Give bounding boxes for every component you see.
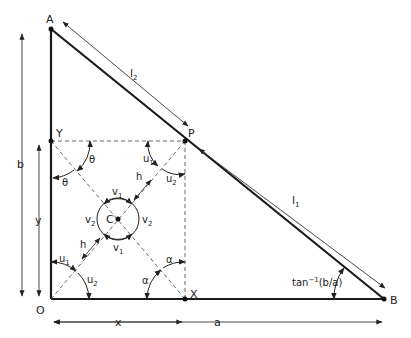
label-l2: l2	[130, 67, 138, 82]
point-X	[183, 297, 188, 302]
point-A	[49, 27, 54, 32]
label-h-lower: h	[80, 239, 86, 250]
point-C	[116, 217, 121, 222]
label-u1-upper: u1	[143, 153, 154, 167]
label-a: a	[214, 316, 221, 329]
label-alpha-right: α	[166, 254, 173, 265]
dimension-arrow-l2	[63, 22, 188, 126]
point-B	[382, 297, 387, 302]
label-C: C	[106, 213, 114, 226]
label-v1-top: v1	[112, 186, 122, 200]
alpha-arc-left	[147, 270, 161, 299]
label-y: y	[35, 214, 42, 227]
label-X: X	[190, 288, 198, 301]
label-v2-right: v2	[142, 214, 152, 228]
label-u2-upper: u2	[166, 173, 177, 187]
label-v1-bottom: v1	[113, 242, 123, 256]
label-B: B	[390, 294, 398, 307]
label-O: O	[36, 304, 45, 317]
h-arrow-upper	[134, 180, 151, 200]
label-alpha-left: α	[142, 275, 149, 286]
label-theta-upper: θ	[89, 154, 95, 165]
label-l1: l1	[292, 194, 300, 209]
point-P	[183, 139, 188, 144]
triangle	[51, 29, 384, 299]
label-x: x	[115, 316, 122, 329]
label-P: P	[188, 127, 195, 140]
label-angle-B: tan−1(b/a)	[292, 276, 342, 288]
triangle-diagram: A Y P X B O C b y x a l2 l1 θ θ u1 u2 h …	[0, 0, 411, 338]
label-h-upper: h	[136, 171, 142, 182]
label-Y: Y	[55, 127, 63, 140]
label-u1-lower: u1	[59, 253, 70, 267]
dimension-arrow-l1	[199, 149, 385, 288]
hypotenuse-AB	[51, 29, 384, 299]
label-A: A	[46, 13, 54, 26]
label-b: b	[17, 158, 24, 171]
label-v2-left: v2	[85, 214, 95, 228]
v1-arc-bottom	[104, 234, 132, 239]
label-u2-lower: u2	[87, 274, 98, 288]
point-Y	[49, 139, 54, 144]
label-theta-lower: θ	[62, 177, 68, 188]
